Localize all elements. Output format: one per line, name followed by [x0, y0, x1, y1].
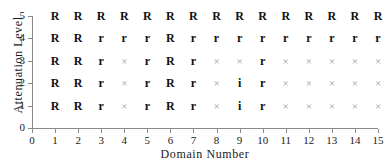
data-marker: i [231, 75, 249, 91]
data-marker: r [254, 30, 272, 46]
data-marker: R [208, 8, 226, 24]
data-marker: × [277, 53, 295, 69]
data-marker: R [69, 30, 87, 46]
data-marker: R [300, 8, 318, 24]
data-marker: × [300, 53, 318, 69]
data-marker: r [92, 53, 110, 69]
data-marker: r [231, 30, 249, 46]
data-marker: r [92, 75, 110, 91]
data-marker: R [69, 53, 87, 69]
data-marker: R [69, 75, 87, 91]
data-marker: R [115, 8, 133, 24]
data-marker: R [46, 8, 64, 24]
chart-figure: 0123456789101112131415 012345 RRRRRRRRRR… [0, 0, 389, 166]
data-marker: × [115, 75, 133, 91]
data-marker: R [254, 8, 272, 24]
data-marker: R [46, 53, 64, 69]
data-marker: R [231, 8, 249, 24]
data-marker: R [69, 8, 87, 24]
data-marker: × [346, 75, 364, 91]
data-marker: R [46, 75, 64, 91]
data-marker: R [184, 8, 202, 24]
data-marker: × [323, 53, 341, 69]
data-marker: r [184, 30, 202, 46]
data-marker: r [138, 53, 156, 69]
data-marker: r [184, 53, 202, 69]
data-marker: × [323, 75, 341, 91]
data-marker: r [254, 75, 272, 91]
x-axis-title: Domain Number [32, 147, 378, 161]
data-marker: r [138, 75, 156, 91]
data-marker: × [346, 98, 364, 114]
data-marker: r [300, 30, 318, 46]
data-marker: R [69, 98, 87, 114]
data-marker: r [323, 30, 341, 46]
data-marker: R [161, 8, 179, 24]
data-marker: × [323, 98, 341, 114]
data-marker-layer: RRRRRRRRRRRRRRRRRrrrRrrrrrrrrrRRr×rRr××r… [0, 0, 389, 166]
data-marker: r [138, 98, 156, 114]
data-marker: R [369, 8, 387, 24]
data-marker: r [138, 30, 156, 46]
data-marker: × [208, 53, 226, 69]
data-marker: R [161, 98, 179, 114]
data-marker: × [346, 53, 364, 69]
data-marker: R [138, 8, 156, 24]
data-marker: R [46, 98, 64, 114]
data-marker: r [208, 30, 226, 46]
data-marker: × [300, 98, 318, 114]
data-marker: × [300, 75, 318, 91]
data-marker: r [92, 30, 110, 46]
data-marker: × [277, 75, 295, 91]
data-marker: R [277, 8, 295, 24]
data-marker: × [208, 75, 226, 91]
data-marker: r [277, 30, 295, 46]
data-marker: r [254, 98, 272, 114]
data-marker: × [231, 53, 249, 69]
data-marker: i [231, 98, 249, 114]
data-marker: r [115, 30, 133, 46]
data-marker: R [161, 30, 179, 46]
data-marker: r [346, 30, 364, 46]
data-marker: R [346, 8, 364, 24]
data-marker: R [46, 30, 64, 46]
data-marker: × [208, 98, 226, 114]
data-marker: r [254, 53, 272, 69]
data-marker: × [115, 98, 133, 114]
data-marker: × [115, 53, 133, 69]
data-marker: × [369, 53, 387, 69]
data-marker: r [92, 98, 110, 114]
data-marker: × [369, 98, 387, 114]
data-marker: r [184, 98, 202, 114]
data-marker: × [369, 75, 387, 91]
data-marker: R [323, 8, 341, 24]
y-axis-title: Attenuation Level [11, 0, 25, 130]
data-marker: R [161, 53, 179, 69]
data-marker: r [369, 30, 387, 46]
data-marker: r [184, 75, 202, 91]
data-marker: × [277, 98, 295, 114]
data-marker: R [161, 75, 179, 91]
data-marker: R [92, 8, 110, 24]
